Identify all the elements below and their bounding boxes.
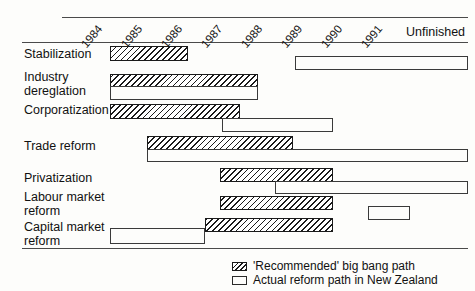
legend-item-recommended: 'Recommended' big bang path (232, 259, 438, 273)
legend-swatch-hatched-icon (232, 262, 247, 271)
axis-tick-1989: 1989 (279, 23, 305, 50)
row-label-corporatization: Corporatization (24, 104, 109, 118)
bar-industry-deregulation-actual (110, 86, 258, 100)
legend-label-recommended: 'Recommended' big bang path (253, 259, 415, 273)
bar-corporatization-recommended (110, 104, 240, 119)
chart-legend: 'Recommended' big bang path Actual refor… (232, 259, 438, 287)
axis-tick-1991: 1991 (359, 23, 385, 50)
row-label-industry-deregulation: Industry dereglation (24, 71, 86, 98)
row-label-stabilization: Stabilization (24, 48, 91, 62)
bar-trade-reform-actual (147, 149, 468, 162)
axis-tick-1990: 1990 (319, 23, 345, 50)
axis-label-unfinished: Unfinished (406, 25, 465, 39)
bar-trade-reform-recommended (147, 136, 293, 150)
axis-rule-bottom (22, 248, 468, 249)
axis-rule-top (62, 17, 468, 18)
legend-swatch-outline-icon (232, 276, 247, 285)
bar-privatization-actual (275, 181, 468, 194)
reform-timeline-chart: 19841985198619871988198919901991 Unfinis… (0, 0, 475, 291)
bar-capital-market-reform-recommended (205, 218, 333, 232)
row-label-privatization: Privatization (24, 172, 92, 186)
row-label-labour-market-reform: Labour market reform (24, 191, 105, 218)
row-label-trade-reform: Trade reform (24, 140, 96, 154)
axis-tick-1988: 1988 (239, 23, 265, 50)
axis-tick-1984: 1984 (79, 23, 105, 50)
bar-capital-market-reform-actual (110, 228, 205, 244)
row-label-capital-market-reform: Capital market reform (24, 221, 105, 248)
bar-corporatization-actual (222, 118, 333, 132)
bar-stabilization-actual (295, 56, 468, 70)
legend-item-actual: Actual reform path in New Zealand (232, 273, 438, 287)
bar-labour-market-reform-recommended (220, 196, 333, 210)
bar-stabilization-recommended (110, 46, 188, 61)
legend-label-actual: Actual reform path in New Zealand (253, 273, 438, 287)
bar-labour-market-reform-actual (368, 206, 410, 220)
bar-privatization-recommended (220, 168, 333, 182)
axis-tick-1987: 1987 (199, 23, 225, 50)
